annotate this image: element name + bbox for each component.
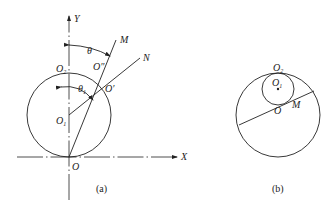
label-b-o1: O1: [272, 77, 282, 89]
x-axis-label: X: [180, 151, 188, 162]
theta1-arc: [61, 87, 93, 100]
theta-label: θ: [87, 45, 92, 56]
caption-b: (b): [272, 183, 284, 195]
caption-a: (a): [96, 183, 107, 195]
label-o1: O1: [56, 115, 66, 127]
y-axis-label: Y: [74, 13, 81, 24]
label-o2: O2: [56, 63, 66, 75]
label-b-o: O: [274, 105, 281, 116]
line-om: [69, 40, 116, 157]
label-b-o2: O2: [273, 62, 283, 74]
theta1-label: θ1: [78, 83, 86, 95]
panel-b: O2 O1 O M (b): [236, 62, 320, 195]
label-m: M: [119, 34, 129, 45]
label-n: N: [142, 52, 151, 63]
diagram-figure: Y X θ θ1 O2 O1 O O″ O′ M N (a) O2 O1 O: [0, 0, 330, 208]
label-o-prime: O′: [105, 83, 115, 94]
label-b-m: M: [291, 99, 301, 110]
label-o-double-prime: O″: [93, 61, 105, 72]
label-o: O: [72, 161, 79, 172]
panel-a: Y X θ θ1 O2 O1 O O″ O′ M N (a): [17, 13, 188, 200]
